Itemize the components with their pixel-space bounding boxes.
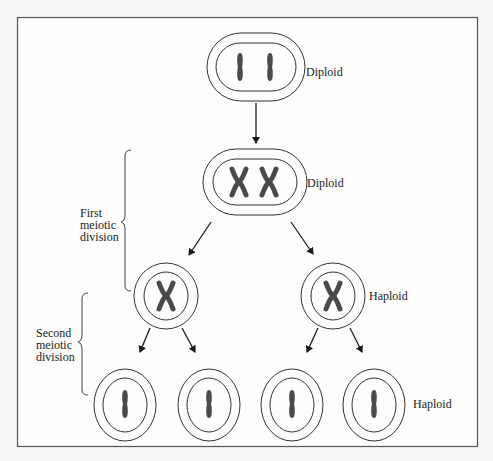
ploidy-label-replicated: Diploid: [307, 177, 344, 189]
chromosome-icon: [289, 390, 295, 418]
second-division-label: Second meiotic division: [36, 327, 96, 363]
chromosome-icon: [237, 53, 243, 81]
ploidy-label-second-division: Haploid: [413, 398, 452, 410]
ploidy-label-parent: Diploid: [306, 66, 343, 78]
first-division-label-line: division: [80, 231, 140, 243]
chromosome-icon: [267, 53, 273, 81]
chromosome-icon: [122, 390, 128, 418]
chromosome-icon: [371, 390, 377, 418]
meiosis-diagram: [0, 0, 493, 461]
first-division-label: First meiotic division: [80, 207, 140, 243]
second-division-label-line: division: [36, 351, 96, 363]
chromosome-icon: [206, 390, 212, 418]
ploidy-label-first-division: Haploid: [369, 290, 408, 302]
